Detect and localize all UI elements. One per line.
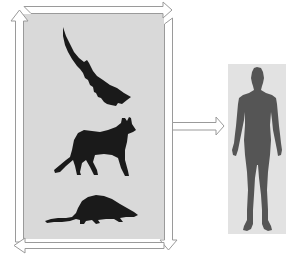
fox-icon — [54, 117, 136, 176]
cycle-arrow-up-icon — [11, 10, 28, 242]
cycle-arrow-down-icon — [160, 18, 177, 250]
diagram: Animal models (bat, fox, shrew) in a cyc… — [0, 0, 294, 265]
cycle-arrow-left-icon — [14, 238, 164, 253]
shrew-icon — [45, 195, 138, 224]
human-icon — [232, 67, 282, 231]
bat-icon — [63, 27, 131, 106]
arrow-to-human-icon — [173, 117, 225, 135]
cycle-arrow-right-icon — [24, 2, 172, 18]
